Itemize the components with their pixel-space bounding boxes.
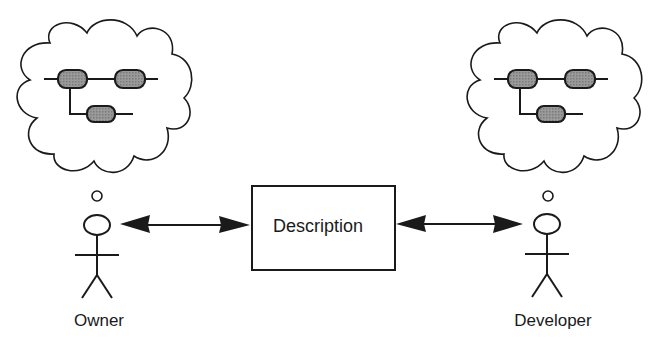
developer-thought-cloud [467,20,642,201]
arrowhead-right-icon [219,216,250,233]
developer-actor-icon [525,214,569,297]
owner-description-arrow [120,215,250,233]
owner-actor-icon [75,215,119,298]
description-label: Description [273,216,363,236]
arrowhead-right-icon [493,215,523,233]
thought-bubble-dot [543,191,553,201]
thought-bubble-dot [92,191,102,201]
developer-label: Developer [514,311,592,330]
description-box: Description [252,186,395,270]
arrowhead-left-icon [396,215,426,232]
owner-label: Owner [74,311,124,330]
description-developer-arrow [396,215,523,233]
diagram-canvas: Owner Description Developer [0,0,651,337]
owner-thought-cloud [17,20,192,201]
arrowhead-left-icon [120,215,150,233]
